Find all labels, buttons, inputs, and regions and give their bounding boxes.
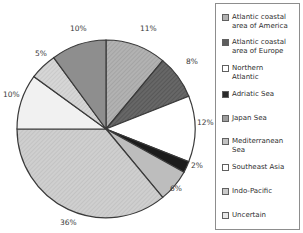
- pie-label-adriatic-sea: 2%: [191, 161, 203, 170]
- legend-swatch-icon-indo-pacific: [222, 188, 229, 195]
- legend-label-mediterranean-sea: Mediterranean Sea: [232, 137, 283, 154]
- legend-label-japan-sea: Japan Sea: [232, 114, 267, 123]
- legend-label-adriatic-sea: Adriatic Sea: [232, 90, 274, 99]
- legend-label-atlantic-coastal-america: Atlantic coastal area of America: [232, 13, 288, 30]
- legend-label-line2: Atlantic: [232, 73, 259, 81]
- legend-item-northern-atlantic[interactable]: Northern Atlantic: [222, 64, 298, 81]
- legend-label-line1: Atlantic coastal: [232, 13, 286, 21]
- pie-chart-figure: 11% 8% 12% 2% 6% 36% 10% 5% 10% Atlantic…: [0, 0, 303, 233]
- pie-label-atlantic-coastal-america: 11%: [140, 24, 157, 33]
- pie-label-atlantic-coastal-europe: 8%: [186, 57, 198, 66]
- legend-label-southeast-asia: Southeast Asia: [232, 163, 284, 172]
- pie-label-southeast-asia: 10%: [3, 90, 20, 99]
- pie-label-japan-sea: 6%: [170, 184, 182, 193]
- legend-swatch-icon-uncertain: [222, 212, 229, 219]
- legend-label-uncertain: Uncertain: [232, 211, 266, 220]
- legend-swatch-icon-adriatic-sea: [222, 91, 229, 98]
- legend-swatch-icon-southeast-asia: [222, 164, 229, 171]
- legend-label-line1: Atlantic coastal: [232, 38, 286, 46]
- legend-label-northern-atlantic: Northern Atlantic: [232, 64, 263, 81]
- legend-label-line2: area of Europe: [232, 47, 283, 55]
- pie-label-northern-atlantic: 12%: [197, 118, 214, 127]
- legend-label-atlantic-coastal-europe: Atlantic coastal area of Europe: [232, 38, 286, 55]
- pie-label-mediterranean-sea: 36%: [60, 218, 77, 227]
- pie-label-uncertain: 10%: [70, 24, 87, 33]
- legend-swatch-icon-mediterranean-sea: [222, 138, 229, 145]
- legend-item-atlantic-coastal-america[interactable]: Atlantic coastal area of America: [222, 13, 298, 30]
- legend-list: Atlantic coastal area of America Atlanti…: [216, 4, 299, 229]
- legend-item-adriatic-sea[interactable]: Adriatic Sea: [222, 90, 298, 99]
- legend-label-line2: area of America: [232, 22, 288, 30]
- legend-item-southeast-asia[interactable]: Southeast Asia: [222, 163, 298, 172]
- legend-item-japan-sea[interactable]: Japan Sea: [222, 114, 298, 123]
- legend-swatch-icon-japan-sea: [222, 115, 229, 122]
- pie-plot-area: 11% 8% 12% 2% 6% 36% 10% 5% 10%: [0, 0, 212, 233]
- legend-item-atlantic-coastal-europe[interactable]: Atlantic coastal area of Europe: [222, 38, 298, 55]
- legend-swatch-icon-atlantic-coastal-europe: [222, 39, 229, 46]
- legend: Atlantic coastal area of America Atlanti…: [215, 3, 300, 230]
- legend-label-line1: Mediterranean: [232, 137, 283, 145]
- legend-label-line2: Sea: [232, 146, 245, 154]
- legend-swatch-icon-atlantic-coastal-america: [222, 14, 229, 21]
- legend-item-mediterranean-sea[interactable]: Mediterranean Sea: [222, 137, 298, 154]
- pie-label-indo-pacific: 5%: [35, 49, 47, 58]
- legend-label-line1: Northern: [232, 64, 263, 72]
- legend-label-indo-pacific: Indo-Pacific: [232, 187, 272, 196]
- legend-swatch-icon-northern-atlantic: [222, 65, 229, 72]
- pie-svg: [0, 0, 212, 233]
- legend-item-indo-pacific[interactable]: Indo-Pacific: [222, 187, 298, 196]
- legend-item-uncertain[interactable]: Uncertain: [222, 211, 298, 220]
